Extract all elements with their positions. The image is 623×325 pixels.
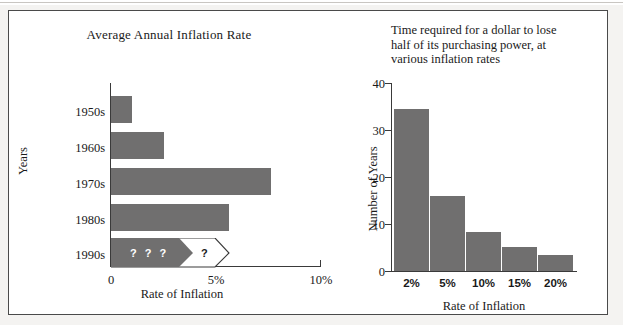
right-bar-5pct — [430, 196, 465, 271]
left-chart: Average Annual Inflation Rate 0 5% 10% 1… — [9, 11, 329, 316]
left-category-label-1990s: 1990s — [49, 249, 105, 261]
right-chart: Time required for a dollar to lose half … — [329, 11, 609, 316]
left-y-axis-label: Years — [16, 147, 31, 175]
right-x-tick-label-10pct: 10% — [463, 277, 504, 289]
right-chart-title-line-1: Time required for a dollar to lose — [391, 23, 601, 38]
left-category-label-1970s: 1970s — [49, 178, 105, 190]
left-category-label-1980s: 1980s — [49, 214, 105, 226]
left-x-tick-label-5: 5% — [196, 273, 236, 288]
right-bar-15pct — [502, 247, 537, 271]
left-bar-1990s-question-marks: ? ? ? — [130, 247, 169, 259]
right-x-tick-label-5pct: 5% — [427, 277, 468, 289]
right-chart-title-line-3: various inflation rates — [391, 52, 601, 67]
left-bar-1970s — [111, 168, 271, 195]
left-x-tick-10 — [320, 260, 321, 267]
left-bar-1960s — [111, 132, 164, 159]
right-bar-2pct — [394, 109, 429, 271]
right-y-tick-label-30: 30 — [355, 126, 385, 136]
right-y-tick-40 — [385, 83, 392, 84]
right-x-tick-label-20pct: 20% — [535, 277, 576, 289]
left-bar-1980s — [111, 204, 229, 231]
left-x-tick-label-0: 0 — [91, 273, 131, 288]
figure-frame: Average Annual Inflation Rate 0 5% 10% 1… — [8, 10, 608, 315]
page-top-rule — [0, 0, 623, 5]
figure-root: Average Annual Inflation Rate 0 5% 10% 1… — [0, 0, 623, 325]
right-x-axis — [391, 271, 577, 272]
left-bar-1990s-arrow-question-mark: ? — [201, 247, 208, 259]
right-y-tick-0 — [385, 271, 392, 272]
left-bar-1950s — [111, 96, 132, 123]
right-chart-title: Time required for a dollar to lose half … — [391, 23, 601, 67]
right-y-axis-label: Number of Years — [366, 146, 381, 231]
right-bar-10pct — [466, 232, 501, 271]
right-x-axis-label: Rate of Inflation — [384, 299, 584, 314]
right-x-tick-label-2pct: 2% — [391, 277, 432, 289]
left-x-axis-label: Rate of Inflation — [57, 287, 307, 302]
right-y-tick-30 — [385, 130, 392, 131]
right-y-tick-10 — [385, 224, 392, 225]
right-y-tick-20 — [385, 177, 392, 178]
left-category-label-1960s: 1960s — [49, 142, 105, 154]
right-chart-title-line-2: half of its purchasing power, at — [391, 38, 601, 53]
right-y-tick-label-40: 40 — [355, 79, 385, 89]
right-x-tick-label-15pct: 15% — [499, 277, 540, 289]
left-bar-1990s-unknown-arrow — [111, 238, 231, 268]
right-y-tick-label-0: 0 — [355, 267, 385, 277]
right-bar-20pct — [538, 255, 573, 271]
left-chart-plot-area: 0 5% 10% 1950s 1960s 1970s 1980s 1990s — [9, 11, 329, 316]
left-category-label-1950s: 1950s — [49, 106, 105, 118]
